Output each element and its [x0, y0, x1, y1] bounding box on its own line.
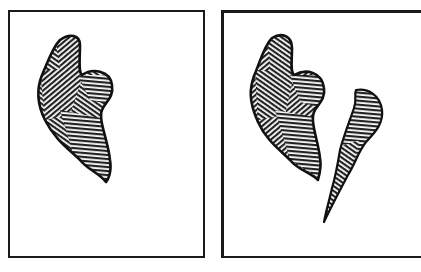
left-panel-frame	[8, 10, 205, 258]
right-panel-frame	[221, 10, 421, 258]
